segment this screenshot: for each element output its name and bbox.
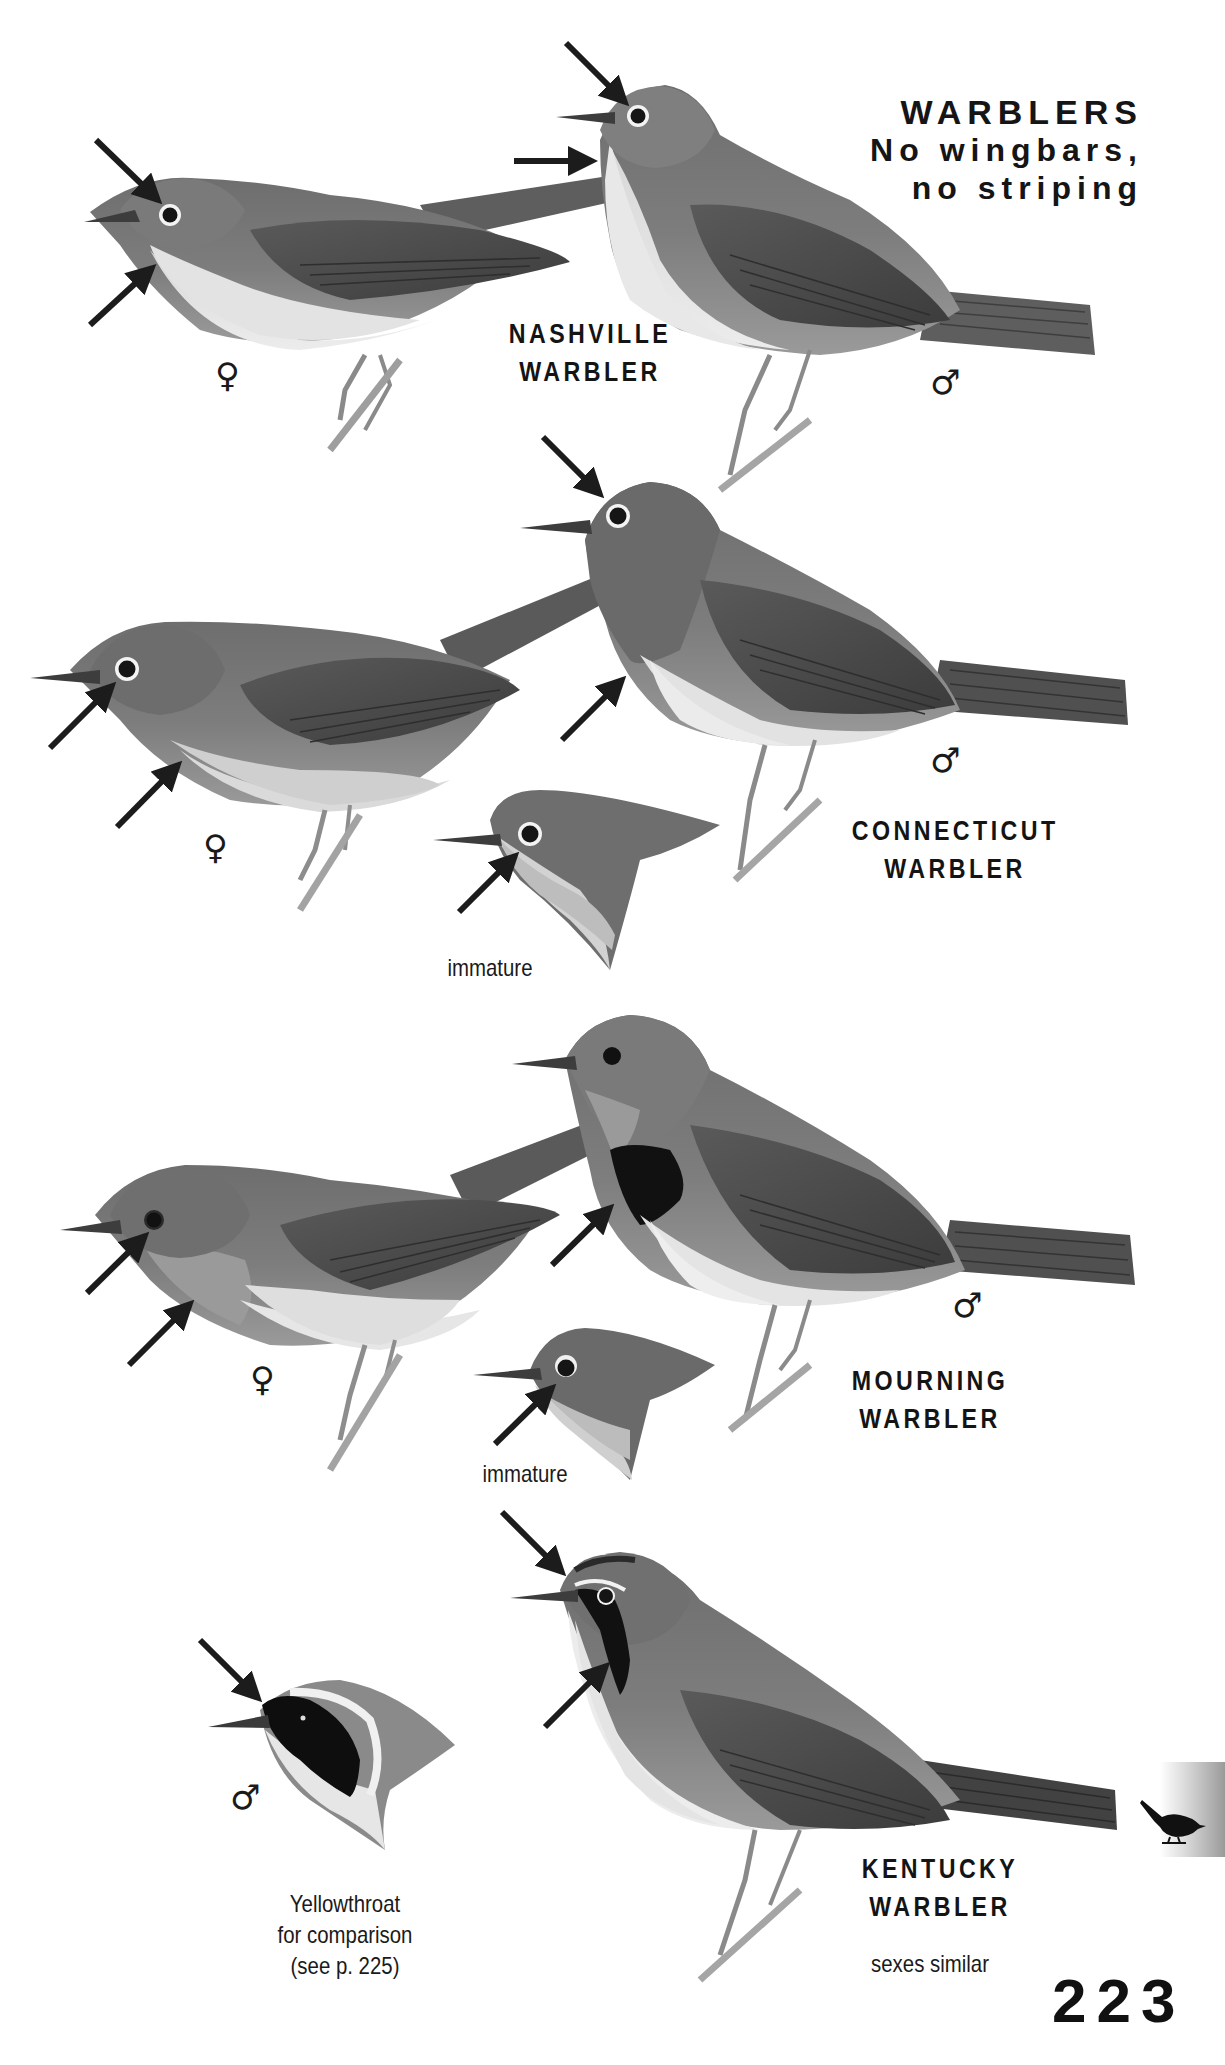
comparison-line-3: (see p. 225)	[256, 1950, 435, 1981]
bird-silhouette-icon	[1140, 1795, 1210, 1845]
comparison-line-1: Yellowthroat	[256, 1888, 435, 1919]
page-number: 223	[1052, 1965, 1185, 2036]
yellowthroat-comparison-illustration	[0, 0, 1225, 2065]
yellowthroat-comparison-caption: Yellowthroat for comparison (see p. 225)	[256, 1888, 435, 1982]
yellowthroat-male-symbol: ♂	[230, 1780, 260, 1814]
comparison-line-2: for comparison	[256, 1919, 435, 1950]
